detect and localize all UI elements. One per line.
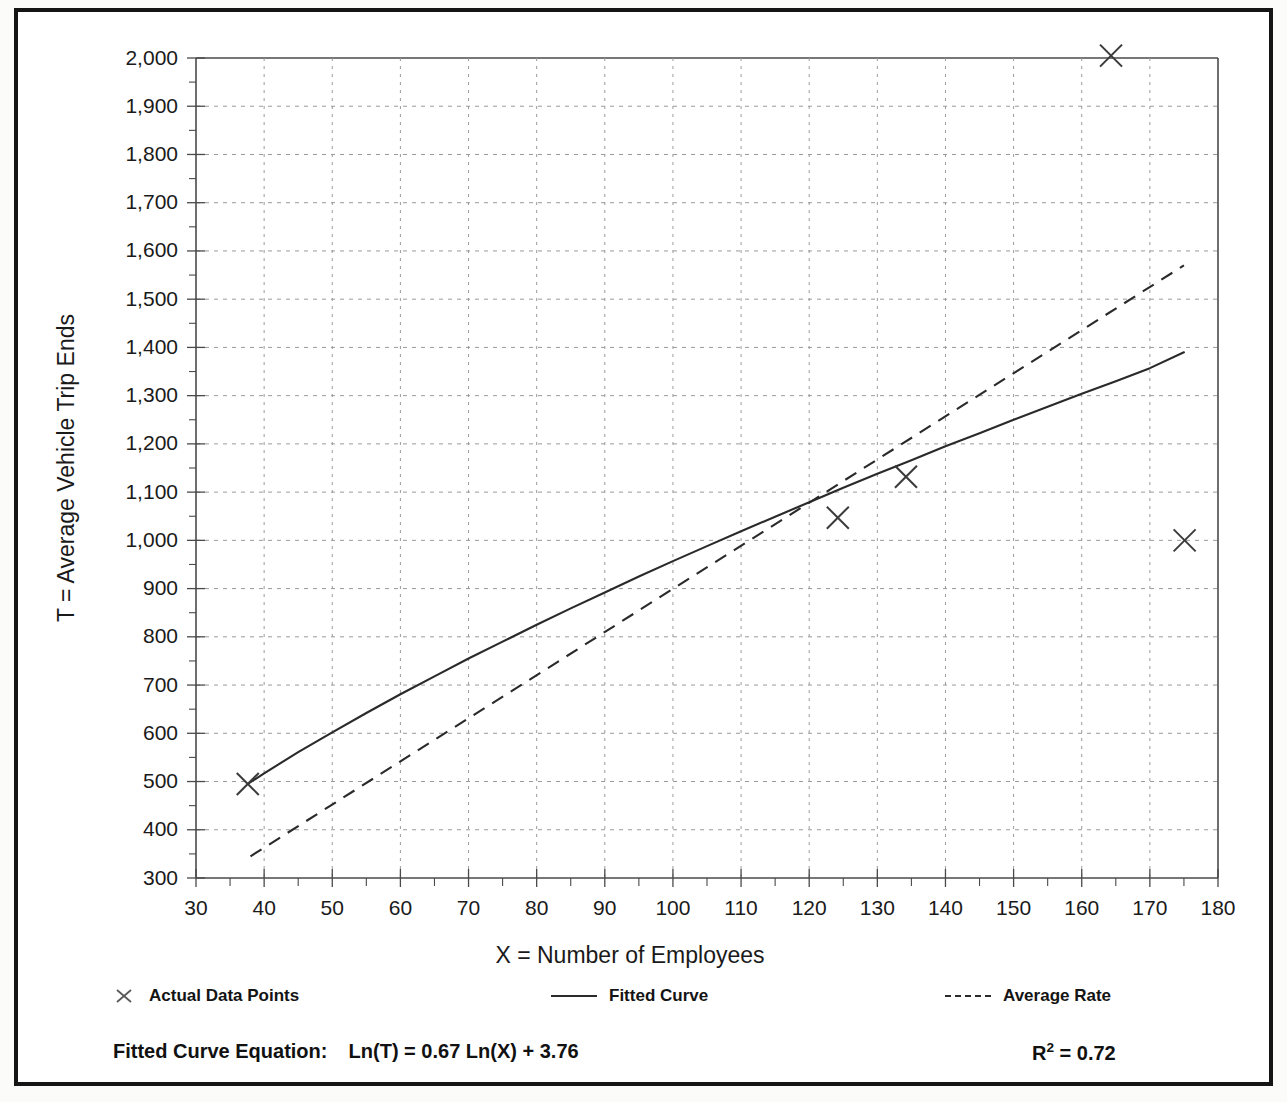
vertical-gridlines [264,58,1150,878]
x-tick-label: 150 [996,896,1031,919]
plot-area-container: 3004005006007008009001,0001,1001,2001,30… [0,0,1287,1102]
x-tick-label: 100 [655,896,690,919]
solid-line-icon [551,987,597,1005]
legend-item-actual-data-points: Actual Data Points [113,986,299,1006]
y-tick-label: 900 [143,576,178,599]
y-tick-label: 600 [143,721,178,744]
x-tick-label: 160 [1064,896,1099,919]
y-tick-label: 1,600 [125,238,178,261]
fitted-curve-equation: Fitted Curve Equation: Ln(T) = 0.67 Ln(X… [113,1040,579,1063]
y-axis-tick-labels: 3004005006007008009001,0001,1001,2001,30… [125,46,178,889]
x-tick-label: 130 [860,896,895,919]
x-axis-title: X = Number of Employees [495,942,764,968]
x-axis-tick-labels: 3040506070809010011012013014015016017018… [184,896,1235,919]
data-point-marker [237,773,259,795]
data-point-marker [1100,45,1122,67]
r-value: = 0.72 [1060,1042,1116,1064]
x-tick-label: 40 [252,896,275,919]
y-tick-label: 1,700 [125,190,178,213]
y-tick-label: 400 [143,817,178,840]
data-point-marker [1174,529,1196,551]
y-tick-label: 500 [143,769,178,792]
data-point-marker [895,466,917,488]
y-tick-label: 1,500 [125,287,178,310]
legend-label: Actual Data Points [149,986,299,1006]
series-actual-data-points [237,45,1196,795]
r-squared-value: R2 = 0.72 [1032,1040,1116,1065]
series-fitted-curve [248,352,1184,784]
horizontal-gridlines [196,58,1218,878]
y-tick-label: 1,300 [125,383,178,406]
equation-row: Fitted Curve Equation: Ln(T) = 0.67 Ln(X… [0,1040,1287,1076]
y-axis-title: T = Average Vehicle Trip Ends [53,314,79,622]
x-tick-label: 60 [389,896,412,919]
x-tick-label: 120 [792,896,827,919]
axis-lines [196,58,1218,878]
chart-legend: Actual Data Points Fitted Curve Average … [0,986,1287,1020]
r-symbol: R [1032,1042,1046,1064]
x-marker-icon [113,987,137,1005]
legend-item-fitted-curve: Fitted Curve [551,986,708,1006]
x-tick-label: 50 [321,896,344,919]
x-tick-label: 180 [1200,896,1235,919]
r-exponent: 2 [1046,1040,1054,1055]
legend-label: Average Rate [1003,986,1111,1006]
y-tick-label: 1,100 [125,480,178,503]
scatter-chart-svg: 3004005006007008009001,0001,1001,2001,30… [0,0,1287,1102]
y-tick-label: 1,800 [125,142,178,165]
x-tick-label: 140 [928,896,963,919]
y-tick-label: 1,400 [125,335,178,358]
y-tick-label: 1,000 [125,528,178,551]
y-tick-label: 800 [143,624,178,647]
y-tick-label: 300 [143,866,178,889]
x-tick-label: 70 [457,896,480,919]
series-average-rate [251,265,1184,856]
x-tick-label: 80 [525,896,548,919]
chart-page: 3004005006007008009001,0001,1001,2001,30… [0,0,1287,1102]
legend-label: Fitted Curve [609,986,708,1006]
x-tick-label: 110 [724,896,757,919]
equation-formula: Ln(T) = 0.67 Ln(X) + 3.76 [349,1040,579,1062]
y-tick-label: 2,000 [125,46,178,69]
y-tick-label: 1,900 [125,94,178,117]
dashed-line-icon [945,987,991,1005]
x-tick-label: 90 [593,896,616,919]
y-tick-label: 1,200 [125,431,178,454]
x-tick-label: 170 [1132,896,1167,919]
x-tick-label: 30 [184,896,207,919]
axis-ticks [187,58,1218,887]
equation-label: Fitted Curve Equation: [113,1040,327,1062]
legend-item-average-rate: Average Rate [945,986,1111,1006]
y-tick-label: 700 [143,673,178,696]
data-point-marker [827,507,849,529]
